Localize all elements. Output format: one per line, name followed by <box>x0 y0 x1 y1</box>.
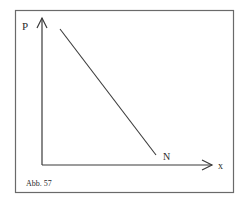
figure-caption: Abb. 57 <box>26 179 52 188</box>
x-axis-label: x <box>218 160 223 171</box>
line-end-label: N <box>163 151 170 162</box>
figure-canvas: P x N Abb. 57 <box>0 0 243 207</box>
y-axis-label: P <box>22 20 28 32</box>
descending-line <box>60 29 156 155</box>
